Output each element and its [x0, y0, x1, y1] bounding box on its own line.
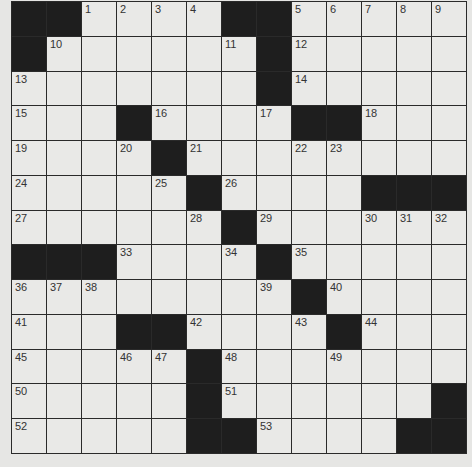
crossword-cell[interactable]: 41 [12, 315, 46, 349]
crossword-cell[interactable] [117, 72, 151, 106]
crossword-cell[interactable] [432, 280, 466, 314]
crossword-cell[interactable]: 25 [152, 176, 186, 210]
crossword-cell[interactable]: 14 [292, 72, 326, 106]
crossword-cell[interactable]: 37 [47, 280, 81, 314]
crossword-cell[interactable]: 50 [12, 384, 46, 418]
crossword-cell[interactable]: 5 [292, 2, 326, 36]
crossword-cell[interactable] [432, 72, 466, 106]
crossword-cell[interactable]: 44 [362, 315, 396, 349]
crossword-cell[interactable] [432, 106, 466, 140]
crossword-cell[interactable] [397, 141, 431, 175]
crossword-cell[interactable] [47, 384, 81, 418]
crossword-cell[interactable]: 48 [222, 350, 256, 384]
crossword-cell[interactable] [292, 211, 326, 245]
crossword-cell[interactable]: 17 [257, 106, 291, 140]
crossword-cell[interactable] [292, 176, 326, 210]
crossword-cell[interactable] [432, 37, 466, 71]
crossword-cell[interactable] [222, 280, 256, 314]
crossword-cell[interactable] [222, 72, 256, 106]
crossword-cell[interactable]: 15 [12, 106, 46, 140]
crossword-cell[interactable] [222, 141, 256, 175]
crossword-cell[interactable] [152, 37, 186, 71]
crossword-cell[interactable] [117, 419, 151, 453]
crossword-cell[interactable]: 34 [222, 245, 256, 279]
crossword-cell[interactable] [292, 384, 326, 418]
crossword-cell[interactable]: 12 [292, 37, 326, 71]
crossword-cell[interactable] [362, 419, 396, 453]
crossword-cell[interactable]: 26 [222, 176, 256, 210]
crossword-cell[interactable] [47, 350, 81, 384]
crossword-cell[interactable]: 13 [12, 72, 46, 106]
crossword-cell[interactable]: 4 [187, 2, 221, 36]
crossword-cell[interactable]: 9 [432, 2, 466, 36]
crossword-cell[interactable]: 32 [432, 211, 466, 245]
crossword-cell[interactable] [432, 315, 466, 349]
crossword-cell[interactable] [397, 280, 431, 314]
crossword-cell[interactable]: 52 [12, 419, 46, 453]
crossword-cell[interactable]: 3 [152, 2, 186, 36]
crossword-cell[interactable] [82, 176, 116, 210]
crossword-cell[interactable] [117, 211, 151, 245]
crossword-cell[interactable] [187, 72, 221, 106]
crossword-cell[interactable]: 49 [327, 350, 361, 384]
crossword-cell[interactable]: 31 [397, 211, 431, 245]
crossword-cell[interactable]: 20 [117, 141, 151, 175]
crossword-cell[interactable]: 2 [117, 2, 151, 36]
crossword-cell[interactable]: 27 [12, 211, 46, 245]
crossword-cell[interactable] [362, 37, 396, 71]
crossword-cell[interactable] [117, 37, 151, 71]
crossword-cell[interactable] [117, 384, 151, 418]
crossword-cell[interactable] [257, 384, 291, 418]
crossword-cell[interactable] [187, 280, 221, 314]
crossword-cell[interactable] [327, 37, 361, 71]
crossword-cell[interactable] [327, 384, 361, 418]
crossword-cell[interactable] [152, 211, 186, 245]
crossword-cell[interactable] [327, 419, 361, 453]
crossword-cell[interactable]: 43 [292, 315, 326, 349]
crossword-cell[interactable] [82, 211, 116, 245]
crossword-cell[interactable] [82, 106, 116, 140]
crossword-cell[interactable] [292, 350, 326, 384]
crossword-cell[interactable] [432, 350, 466, 384]
crossword-cell[interactable]: 1 [82, 2, 116, 36]
crossword-cell[interactable]: 28 [187, 211, 221, 245]
crossword-cell[interactable] [82, 419, 116, 453]
crossword-cell[interactable]: 51 [222, 384, 256, 418]
crossword-cell[interactable]: 19 [12, 141, 46, 175]
crossword-cell[interactable]: 45 [12, 350, 46, 384]
crossword-cell[interactable]: 6 [327, 2, 361, 36]
crossword-cell[interactable] [222, 315, 256, 349]
crossword-cell[interactable] [362, 384, 396, 418]
crossword-cell[interactable]: 38 [82, 280, 116, 314]
crossword-cell[interactable]: 24 [12, 176, 46, 210]
crossword-cell[interactable] [432, 245, 466, 279]
crossword-cell[interactable] [82, 72, 116, 106]
crossword-cell[interactable] [47, 419, 81, 453]
crossword-cell[interactable] [152, 419, 186, 453]
crossword-cell[interactable]: 18 [362, 106, 396, 140]
crossword-cell[interactable]: 39 [257, 280, 291, 314]
crossword-cell[interactable] [257, 315, 291, 349]
crossword-cell[interactable] [47, 106, 81, 140]
crossword-cell[interactable]: 10 [47, 37, 81, 71]
crossword-cell[interactable] [152, 280, 186, 314]
crossword-cell[interactable] [82, 384, 116, 418]
crossword-cell[interactable] [327, 176, 361, 210]
crossword-cell[interactable] [82, 315, 116, 349]
crossword-cell[interactable]: 30 [362, 211, 396, 245]
crossword-cell[interactable]: 33 [117, 245, 151, 279]
crossword-cell[interactable] [187, 37, 221, 71]
crossword-cell[interactable] [187, 106, 221, 140]
crossword-cell[interactable] [257, 350, 291, 384]
crossword-cell[interactable]: 35 [292, 245, 326, 279]
crossword-cell[interactable]: 23 [327, 141, 361, 175]
crossword-cell[interactable] [397, 384, 431, 418]
crossword-cell[interactable]: 46 [117, 350, 151, 384]
crossword-cell[interactable] [47, 72, 81, 106]
crossword-cell[interactable] [47, 315, 81, 349]
crossword-cell[interactable] [47, 176, 81, 210]
crossword-cell[interactable] [47, 141, 81, 175]
crossword-cell[interactable] [152, 245, 186, 279]
crossword-cell[interactable] [82, 141, 116, 175]
crossword-cell[interactable]: 29 [257, 211, 291, 245]
